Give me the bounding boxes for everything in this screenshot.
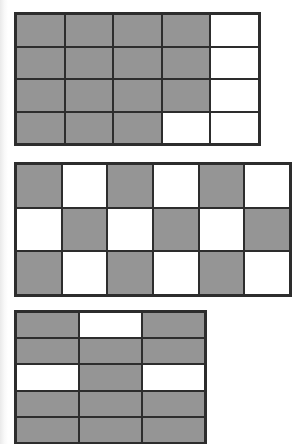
unshaded-cell xyxy=(210,14,259,47)
shaded-cell xyxy=(65,47,114,80)
fraction-grid-top xyxy=(14,12,261,146)
shaded-cell xyxy=(16,391,79,417)
shaded-cell xyxy=(79,364,142,390)
shaded-cell xyxy=(199,164,245,208)
unshaded-cell xyxy=(79,312,142,338)
unshaded-cell xyxy=(153,164,199,208)
shaded-cell xyxy=(199,251,245,295)
shaded-cell xyxy=(16,47,65,80)
shaded-cell xyxy=(142,391,205,417)
shaded-cell xyxy=(16,251,62,295)
unshaded-cell xyxy=(244,251,290,295)
shaded-cell xyxy=(113,79,162,112)
shaded-cell xyxy=(65,79,114,112)
unshaded-cell xyxy=(153,251,199,295)
shaded-cell xyxy=(162,14,211,47)
unshaded-cell xyxy=(16,364,79,390)
shaded-cell xyxy=(162,47,211,80)
shaded-cell xyxy=(107,164,153,208)
shaded-cell xyxy=(79,338,142,364)
shaded-cell xyxy=(16,312,79,338)
unshaded-cell xyxy=(16,208,62,252)
shaded-cell xyxy=(79,391,142,417)
worksheet-page xyxy=(0,0,301,444)
unshaded-cell xyxy=(210,47,259,80)
shaded-cell xyxy=(16,164,62,208)
unshaded-cell xyxy=(244,164,290,208)
shaded-cell xyxy=(107,251,153,295)
shaded-cell xyxy=(142,312,205,338)
shaded-cell xyxy=(62,208,108,252)
shaded-cell xyxy=(142,417,205,443)
fraction-grid-middle xyxy=(14,162,292,297)
shaded-cell xyxy=(244,208,290,252)
fraction-grid-bottom xyxy=(14,310,207,444)
shaded-cell xyxy=(113,112,162,145)
shaded-cell xyxy=(16,79,65,112)
shaded-cell xyxy=(16,417,79,443)
shaded-cell xyxy=(162,79,211,112)
shaded-cell xyxy=(16,14,65,47)
shaded-cell xyxy=(113,14,162,47)
unshaded-cell xyxy=(162,112,211,145)
unshaded-cell xyxy=(199,208,245,252)
shaded-cell xyxy=(142,338,205,364)
shaded-cell xyxy=(79,417,142,443)
unshaded-cell xyxy=(142,364,205,390)
shaded-cell xyxy=(16,112,65,145)
shaded-cell xyxy=(153,208,199,252)
shaded-cell xyxy=(65,14,114,47)
shaded-cell xyxy=(65,112,114,145)
unshaded-cell xyxy=(210,79,259,112)
unshaded-cell xyxy=(62,164,108,208)
unshaded-cell xyxy=(107,208,153,252)
scan-edge-shadow xyxy=(0,0,8,444)
shaded-cell xyxy=(113,47,162,80)
unshaded-cell xyxy=(210,112,259,145)
unshaded-cell xyxy=(62,251,108,295)
shaded-cell xyxy=(16,338,79,364)
